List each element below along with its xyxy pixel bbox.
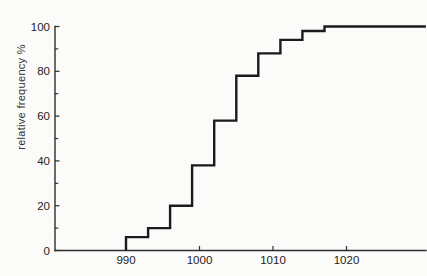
axes-group — [55, 27, 426, 251]
y-tick-label: 60 — [37, 110, 50, 122]
cumulative-frequency-chart: relative frequency % 0204060801009901000… — [0, 0, 427, 276]
tick-labels-group: 020406080100990100010101020 — [31, 21, 359, 266]
ticks-group — [55, 27, 347, 251]
figure-canvas: relative frequency % 0204060801009901000… — [0, 0, 427, 276]
step-curve — [126, 27, 426, 251]
series-group — [126, 27, 426, 251]
x-tick-label: 1010 — [260, 254, 286, 266]
y-tick-label: 40 — [37, 155, 50, 167]
x-tick-label: 1020 — [334, 254, 360, 266]
x-tick-label: 1000 — [187, 254, 213, 266]
y-tick-label: 100 — [31, 21, 50, 33]
y-tick-label: 0 — [44, 245, 50, 257]
y-axis-title: relative frequency % — [15, 44, 27, 150]
y-tick-label: 80 — [37, 65, 50, 77]
y-tick-label: 20 — [37, 200, 50, 212]
x-tick-label: 990 — [116, 254, 135, 266]
